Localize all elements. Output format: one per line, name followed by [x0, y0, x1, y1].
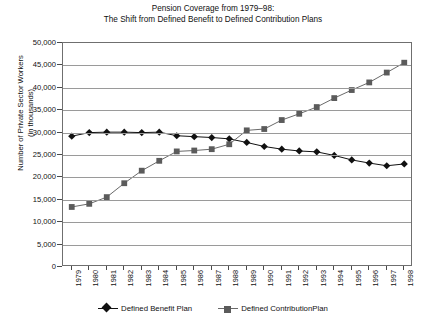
data-point-marker	[348, 156, 355, 163]
data-point-marker	[226, 141, 232, 147]
x-tick-label: 1994	[336, 270, 345, 286]
y-tick-label: 50,000	[4, 38, 56, 47]
data-point-marker	[401, 160, 408, 167]
data-point-marker	[314, 104, 320, 110]
data-point-marker	[209, 146, 215, 152]
data-point-marker	[384, 70, 390, 76]
data-point-marker	[156, 158, 162, 164]
data-point-marker	[68, 133, 75, 140]
gridline	[63, 133, 411, 134]
data-point-marker	[261, 143, 268, 150]
legend-label-defined-benefit-plan: Defined Benefit Plan	[121, 304, 192, 313]
gridline	[63, 245, 411, 246]
y-tick-label: 45,000	[4, 60, 56, 69]
x-tick-label: 1997	[389, 270, 398, 286]
data-point-marker	[121, 180, 127, 186]
data-point-marker	[278, 146, 285, 153]
x-tick-label: 1984	[161, 270, 170, 286]
y-tick-label: 0	[4, 262, 56, 271]
legend-item-defined-benefit-plan[interactable]: Defined Benefit Plan	[98, 304, 192, 313]
legend-label-defined-contribution-plan: Defined ContributionPlan	[241, 304, 328, 313]
y-tick-label: 40,000	[4, 82, 56, 91]
data-point-marker	[208, 134, 215, 141]
x-tick-label: 1979	[74, 270, 83, 286]
data-point-marker	[296, 147, 303, 154]
y-tick-label: 35,000	[4, 105, 56, 114]
square-marker-icon	[218, 304, 238, 313]
data-point-marker	[296, 111, 302, 117]
gridline	[63, 65, 411, 66]
x-tick-label: 1986	[196, 270, 205, 286]
x-tick-label: 1991	[284, 270, 293, 286]
x-tick-label: 1989	[249, 270, 258, 286]
data-point-marker	[191, 148, 197, 154]
data-point-marker	[261, 126, 267, 132]
x-tick-label: 1998	[406, 270, 415, 286]
legend-item-defined-contribution-plan[interactable]: Defined ContributionPlan	[218, 304, 328, 313]
data-point-marker	[86, 201, 92, 207]
data-point-marker	[279, 117, 285, 123]
gridline	[63, 155, 411, 156]
x-tick-label: 1988	[231, 270, 240, 286]
y-tick-label: 20,000	[4, 172, 56, 181]
x-tick-label: 1987	[214, 270, 223, 286]
y-tick-mark	[57, 266, 62, 267]
chart-title-line-2: The Shift from Defined Benefit to Define…	[0, 14, 426, 25]
chart-title-line-1: Pension Coverage from 1979–98:	[0, 3, 426, 14]
gridline	[63, 88, 411, 89]
data-point-marker	[139, 168, 145, 174]
data-point-marker	[383, 162, 390, 169]
x-tick-label: 1993	[319, 270, 328, 286]
y-tick-label: 25,000	[4, 150, 56, 159]
gridline	[63, 200, 411, 201]
gridline	[63, 110, 411, 111]
x-tick-label: 1985	[179, 270, 188, 286]
x-tick-label: 1980	[91, 270, 100, 286]
plot-area	[62, 42, 412, 266]
chart-title: Pension Coverage from 1979–98: The Shift…	[0, 3, 426, 25]
y-tick-label: 5,000	[4, 239, 56, 248]
y-tick-label: 10,000	[4, 217, 56, 226]
y-tick-label: 15,000	[4, 194, 56, 203]
series-diamond	[68, 129, 408, 170]
data-point-marker	[366, 80, 372, 86]
data-point-marker	[366, 159, 373, 166]
data-point-marker	[331, 95, 337, 101]
x-tick-label: 1990	[266, 270, 275, 286]
x-tick-label: 1996	[371, 270, 380, 286]
data-point-marker	[243, 139, 250, 146]
x-tick-label: 1983	[144, 270, 153, 286]
data-point-marker	[174, 149, 180, 155]
series-square	[69, 60, 407, 210]
x-tick-label: 1995	[354, 270, 363, 286]
y-tick-label: 30,000	[4, 127, 56, 136]
x-tick-label: 1992	[301, 270, 310, 286]
gridline	[63, 177, 411, 178]
x-tick-label: 1982	[126, 270, 135, 286]
chart-legend: Defined Benefit Plan Defined Contributio…	[0, 304, 426, 313]
x-tick-label: 1981	[109, 270, 118, 286]
gridline	[63, 222, 411, 223]
data-point-marker	[191, 133, 198, 140]
diamond-marker-icon	[98, 304, 118, 313]
data-point-marker	[69, 204, 75, 210]
